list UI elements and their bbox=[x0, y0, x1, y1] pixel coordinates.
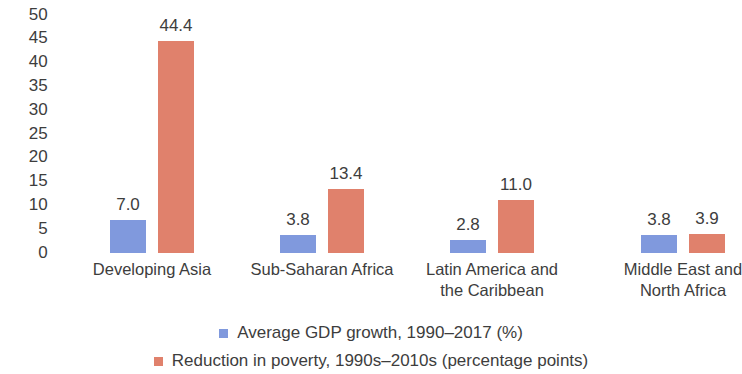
y-axis-tick-label: 0 bbox=[6, 244, 48, 261]
y-axis-tick-label: 25 bbox=[6, 125, 48, 142]
bar-poverty-reduction bbox=[498, 200, 534, 253]
bar-gdp-growth bbox=[110, 220, 146, 253]
bar-value-label: 44.4 bbox=[144, 17, 208, 34]
y-axis-tick-label: 15 bbox=[6, 172, 48, 189]
y-axis-tick-label: 5 bbox=[6, 220, 48, 237]
category-label-line: Sub-Saharan Africa bbox=[227, 259, 417, 280]
y-axis-tick-label: 30 bbox=[6, 101, 48, 118]
bar-value-label: 3.8 bbox=[266, 211, 330, 228]
x-axis-category-label: Latin America andthe Caribbean bbox=[397, 259, 587, 301]
bar-poverty-reduction bbox=[328, 189, 364, 253]
legend-item[interactable]: Reduction in poverty, 1990s–2010s (perce… bbox=[0, 348, 742, 374]
y-axis-tick-label: 10 bbox=[6, 196, 48, 213]
legend-label: Average GDP growth, 1990–2017 (%) bbox=[237, 323, 523, 343]
y-axis-tick-label: 45 bbox=[6, 29, 48, 46]
y-axis: 50454035302520151050 bbox=[0, 0, 48, 268]
bar-poverty-reduction bbox=[689, 234, 725, 253]
bar-value-label: 3.9 bbox=[675, 210, 739, 227]
legend-item[interactable]: Average GDP growth, 1990–2017 (%) bbox=[0, 320, 742, 346]
category-label-line: North Africa bbox=[588, 280, 742, 301]
bar-gdp-growth bbox=[641, 235, 677, 253]
category-label-line: Latin America and bbox=[397, 259, 587, 280]
bar-value-label: 13.4 bbox=[314, 165, 378, 182]
y-axis-tick-label: 20 bbox=[6, 148, 48, 165]
bar-value-label: 11.0 bbox=[484, 176, 548, 193]
x-axis-category-label: Middle East andNorth Africa bbox=[588, 259, 742, 301]
bar-value-label: 7.0 bbox=[96, 196, 160, 213]
x-axis-category-labels: Developing AsiaSub-Saharan AfricaLatin A… bbox=[48, 259, 742, 307]
x-axis-category-label: Developing Asia bbox=[57, 259, 247, 280]
y-axis-tick-label: 40 bbox=[6, 53, 48, 70]
bar-poverty-reduction bbox=[158, 41, 194, 253]
y-axis-tick-label: 50 bbox=[6, 6, 48, 23]
legend-label: Reduction in poverty, 1990s–2010s (perce… bbox=[172, 351, 588, 371]
category-label-line: the Caribbean bbox=[397, 280, 587, 301]
bar-value-label: 2.8 bbox=[436, 216, 500, 233]
plot-area: 7.044.43.813.42.811.03.83.9 bbox=[48, 0, 742, 253]
bar-gdp-growth bbox=[450, 240, 486, 253]
legend-swatch-icon bbox=[154, 357, 163, 366]
legend-swatch-icon bbox=[219, 329, 228, 338]
grouped-bar-chart: 50454035302520151050 7.044.43.813.42.811… bbox=[0, 0, 742, 374]
category-label-line: Middle East and bbox=[588, 259, 742, 280]
bar-gdp-growth bbox=[280, 235, 316, 253]
category-label-line: Developing Asia bbox=[57, 259, 247, 280]
x-axis-category-label: Sub-Saharan Africa bbox=[227, 259, 417, 280]
y-axis-tick-label: 35 bbox=[6, 77, 48, 94]
